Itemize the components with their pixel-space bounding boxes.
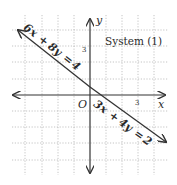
svg-text:6x: 6x xyxy=(21,21,41,40)
equation-line xyxy=(18,30,90,87)
y-tick-label: 3 xyxy=(82,46,86,54)
x-tick-label: 3 xyxy=(135,99,139,107)
svg-text:8y: 8y xyxy=(45,40,65,60)
y-axis-label: y xyxy=(95,14,103,27)
coordinate-graph: y x O 3 3 System (1) 6x + 8y = 4 3x + 4y… xyxy=(0,0,177,185)
x-axis-label: x xyxy=(158,98,165,111)
system-title: System (1) xyxy=(105,35,162,47)
equation-label-2: 3x + 4y = 2 xyxy=(91,98,154,149)
equation-label-1: 6x + 8y = 4 xyxy=(21,21,83,74)
origin-label: O xyxy=(78,98,87,111)
